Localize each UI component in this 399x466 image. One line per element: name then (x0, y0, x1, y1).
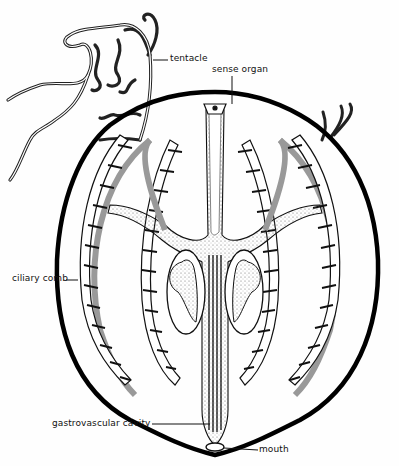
label-mouth: mouth (259, 444, 289, 454)
label-gastrovascular-cavity: gastrovascular cavity (52, 418, 150, 428)
mouth-opening (206, 443, 224, 451)
ctenophore-diagram: tentacle sense organ ciliary comb gastro… (0, 0, 399, 466)
sense-organ (204, 104, 226, 114)
label-ciliary-comb: ciliary comb (12, 273, 68, 283)
label-tentacle: tentacle (170, 53, 208, 63)
diagram-drawing (0, 0, 399, 466)
label-sense-organ: sense organ (212, 64, 268, 74)
